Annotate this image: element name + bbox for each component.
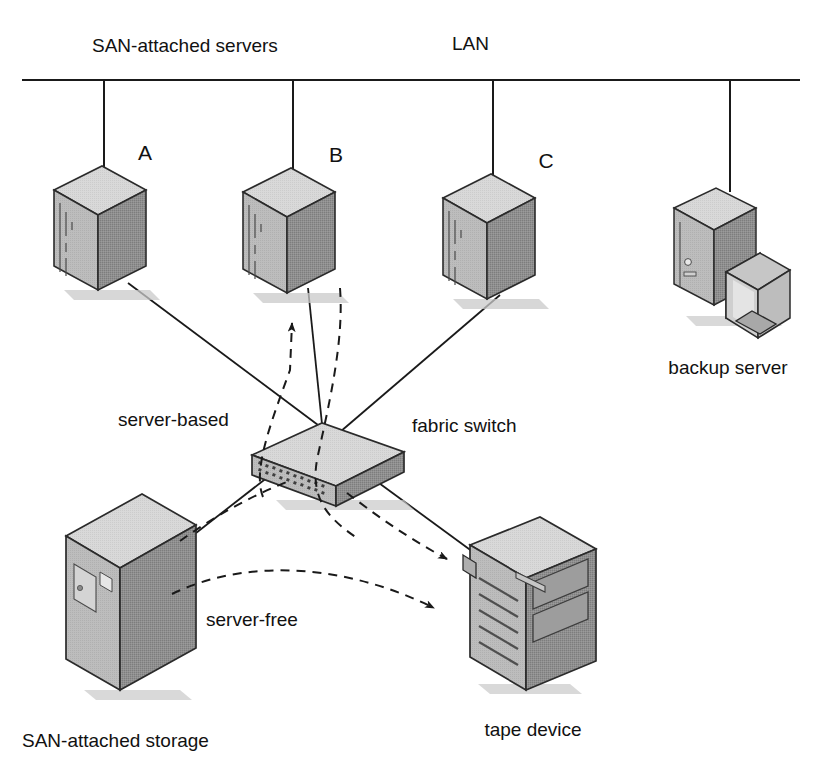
backup-server-icon: backup server xyxy=(668,188,790,378)
server-c-label: C xyxy=(538,149,553,172)
link-server-b-to-switch xyxy=(308,288,322,424)
server-a-icon: A xyxy=(54,141,160,300)
san-backup-topology-diagram: A B xyxy=(0,0,819,769)
san-attached-servers-label: SAN-attached servers xyxy=(92,35,278,56)
fabric-switch-icon: fabric switch xyxy=(252,415,517,510)
fabric-switch-label: fabric switch xyxy=(412,415,517,436)
server-free-label: server-free xyxy=(206,609,298,630)
server-based-label: server-based xyxy=(118,409,229,430)
server-b-label: B xyxy=(329,143,343,166)
link-switch-to-tape xyxy=(368,475,484,560)
link-server-c-to-switch xyxy=(340,295,500,432)
diagram-page: A B xyxy=(0,0,819,769)
server-a-label: A xyxy=(138,141,152,164)
flow-server-free-storage-to-tape xyxy=(172,570,434,608)
san-storage-shadow xyxy=(84,690,192,700)
server-b-icon: B xyxy=(243,143,349,303)
server-b-shadow xyxy=(253,293,349,303)
san-storage-label: SAN-attached storage xyxy=(22,730,209,751)
server-c-icon: C xyxy=(443,149,554,309)
server-a-shadow xyxy=(64,290,160,300)
lan-label: LAN xyxy=(452,33,489,54)
tape-device-icon: tape device xyxy=(463,517,596,740)
san-storage-icon: SAN-attached storage xyxy=(22,494,209,751)
server-c-shadow xyxy=(453,299,549,309)
lan-bus-group xyxy=(22,80,800,192)
backup-server-label: backup server xyxy=(668,357,788,378)
tape-device-label: tape device xyxy=(484,719,581,740)
link-server-a-to-switch xyxy=(128,283,318,425)
